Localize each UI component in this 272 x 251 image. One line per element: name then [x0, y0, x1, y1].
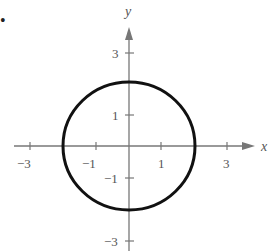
- x-axis-label: x: [260, 139, 268, 154]
- x-tick-label: −1: [82, 156, 96, 171]
- y-tick-label: 3: [112, 46, 119, 61]
- x-axis-arrow-icon: [242, 142, 255, 150]
- y-axis-arrow-icon: [125, 27, 133, 40]
- circle-graph: • x y −3 −1 1 3 3 1 −1 −3: [0, 0, 272, 251]
- x-tick-label: −3: [17, 156, 31, 171]
- y-tick-label: −1: [104, 171, 118, 186]
- x-tick-label: 1: [158, 156, 165, 171]
- y-tick-label: 1: [112, 108, 119, 123]
- bullet-marker: •: [0, 12, 6, 29]
- y-axis-label: y: [123, 4, 132, 19]
- y-tick-label: −3: [104, 234, 118, 249]
- x-tick-label: 3: [223, 156, 230, 171]
